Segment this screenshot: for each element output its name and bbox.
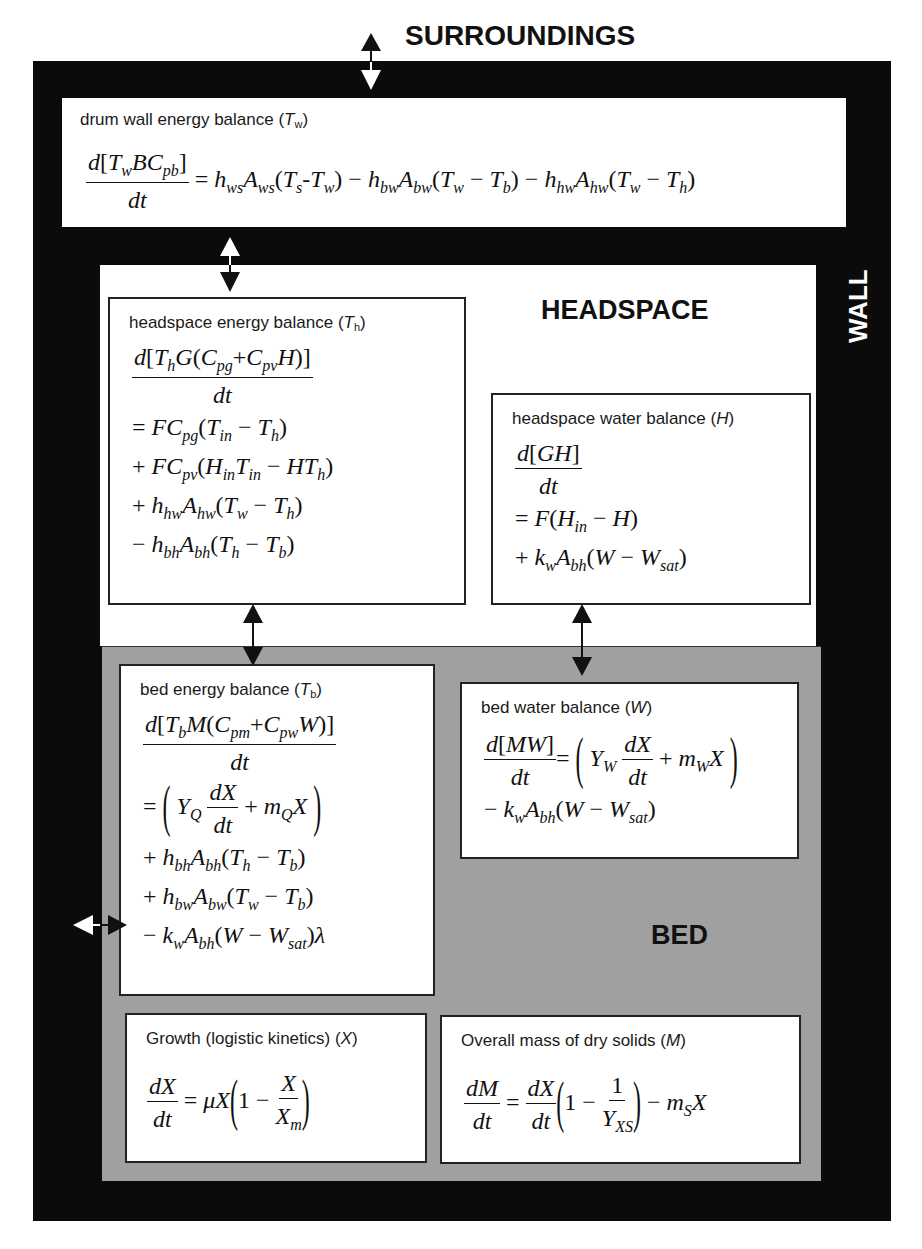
wall-bed-arrow-icon [0, 0, 922, 1249]
